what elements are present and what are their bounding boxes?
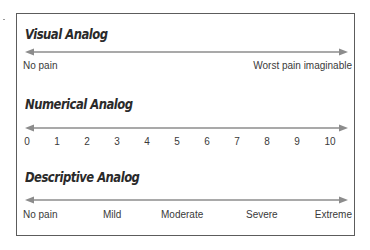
label-moderate: Moderate bbox=[161, 209, 203, 220]
tick-2: 2 bbox=[84, 136, 90, 147]
tick-0: 0 bbox=[24, 136, 30, 147]
label-severe: Severe bbox=[246, 209, 278, 220]
tick-6: 6 bbox=[204, 136, 210, 147]
tick-1: 1 bbox=[54, 136, 60, 147]
visual-analog-arrow bbox=[25, 48, 348, 56]
pain-scales-panel: Visual Analog No pain Worst pain imagina… bbox=[16, 13, 355, 236]
tick-8: 8 bbox=[264, 136, 270, 147]
numerical-analog-arrow bbox=[25, 124, 348, 132]
descriptive-analog-title: Descriptive Analog bbox=[25, 169, 139, 185]
descriptive-analog-arrow bbox=[25, 196, 348, 204]
tick-9: 9 bbox=[294, 136, 300, 147]
tick-5: 5 bbox=[174, 136, 180, 147]
label-mild: Mild bbox=[103, 209, 121, 220]
label-extreme: Extreme bbox=[315, 209, 352, 220]
tick-4: 4 bbox=[144, 136, 150, 147]
tick-3: 3 bbox=[114, 136, 120, 147]
visual-analog-title: Visual Analog bbox=[25, 26, 107, 42]
corner-mark bbox=[3, 19, 5, 20]
double-arrow-icon bbox=[25, 48, 348, 56]
numerical-analog-ticks: 0 1 2 3 4 5 6 7 8 9 10 bbox=[25, 136, 348, 150]
tick-10: 10 bbox=[324, 136, 335, 147]
double-arrow-icon bbox=[25, 196, 348, 204]
descriptive-analog-labels: No pain Mild Moderate Severe Extreme bbox=[25, 209, 348, 223]
tick-7: 7 bbox=[234, 136, 240, 147]
visual-analog-labels: No pain Worst pain imaginable bbox=[25, 60, 348, 74]
double-arrow-icon bbox=[25, 124, 348, 132]
label-no-pain: No pain bbox=[23, 209, 57, 220]
label-no-pain: No pain bbox=[23, 60, 57, 71]
label-worst-pain: Worst pain imaginable bbox=[253, 60, 352, 71]
numerical-analog-title: Numerical Analog bbox=[25, 96, 133, 112]
